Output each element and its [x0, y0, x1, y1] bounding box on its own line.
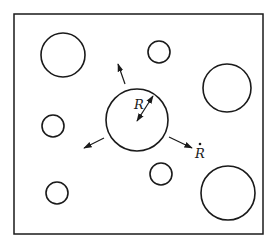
growth-rate-letter: R: [194, 146, 205, 161]
growth-arrow-down-right: [169, 137, 192, 148]
bubbles: [41, 33, 255, 220]
growth-arrow-up: [118, 64, 125, 84]
growth-rate-label: R: [194, 143, 205, 161]
bubble-bottom-right-large: [201, 166, 255, 220]
radius-label: R: [133, 97, 144, 112]
frame-border: [14, 14, 263, 234]
growth-rate-dot-icon: [199, 143, 202, 146]
bubble-top-middle-small: [148, 41, 170, 63]
bubble-bottom-middle-small: [150, 163, 172, 185]
bubble-top-left-large: [41, 33, 85, 77]
growth-arrow-down-left: [84, 138, 104, 148]
bubble-left-small: [42, 115, 64, 137]
bubble-right-large: [203, 64, 251, 112]
bubble-growth-diagram: R R: [0, 0, 277, 247]
bubble-bottom-left-small: [46, 182, 68, 204]
